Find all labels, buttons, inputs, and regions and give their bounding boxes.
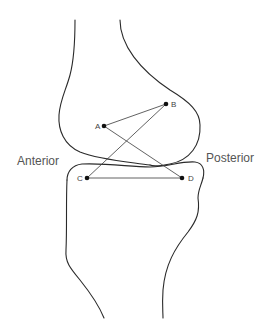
line-a-d xyxy=(104,126,182,178)
point-d xyxy=(180,176,185,181)
femur-posterior-outline xyxy=(120,20,200,166)
label-d: D xyxy=(188,174,194,183)
line-a-b xyxy=(104,104,166,126)
label-c: C xyxy=(77,174,83,183)
point-b xyxy=(164,102,169,107)
points xyxy=(85,102,185,181)
tibia-posterior-outline xyxy=(163,178,203,318)
femur-anterior-outline xyxy=(59,20,150,165)
knee-diagram: A B C D Anterior Posterior xyxy=(0,0,268,334)
anterior-label: Anterior xyxy=(17,154,59,168)
tibia-anterior-outline xyxy=(66,180,104,318)
label-a: A xyxy=(95,122,101,131)
point-a xyxy=(102,124,107,129)
femur xyxy=(59,20,200,166)
posterior-label: Posterior xyxy=(206,151,254,165)
point-c xyxy=(85,176,90,181)
tibia xyxy=(66,162,204,318)
ligament-lines xyxy=(87,104,182,178)
label-b: B xyxy=(171,100,176,109)
